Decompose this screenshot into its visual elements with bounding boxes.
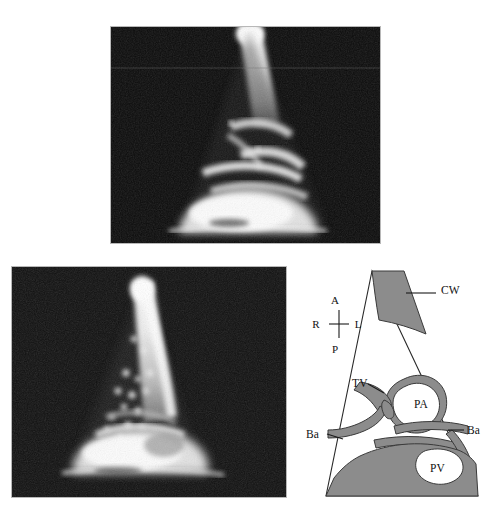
label-ba-left: Ba [306,428,319,440]
orientation-cross: A P R L [312,294,361,355]
bottom-us-grain [12,267,286,497]
orientation-label-left: L [355,318,362,330]
orientation-label-anterior: A [331,294,339,306]
bottom-left-ultrasound-image [12,267,286,497]
figure-root: CW TV PA Ba Ba PV A P R L [0,0,490,515]
top-ultrasound-image [111,27,380,243]
label-tv: TV [352,377,368,389]
label-ba-right: Ba [467,424,480,436]
label-cw: CW [441,284,460,296]
top-ultrasound-canvas [111,27,380,243]
label-pa: PA [414,398,429,410]
label-pv: PV [430,462,446,474]
orientation-label-right: R [312,318,320,330]
anatomical-line-diagram: CW TV PA Ba Ba PV A P R L [300,260,490,515]
top-us-grain [111,27,380,243]
diagram-canvas: CW TV PA Ba Ba PV A P R L [300,260,490,515]
bottom-ultrasound-canvas [12,267,286,497]
orientation-label-posterior: P [332,343,338,355]
